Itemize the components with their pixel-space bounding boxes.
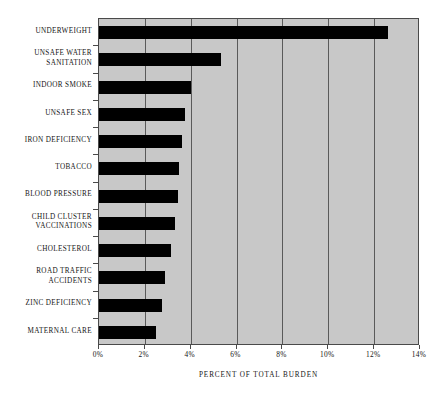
bar [99, 326, 156, 339]
bar [99, 299, 162, 312]
category-label: UNSAFE SEX [0, 109, 92, 119]
category-label: CHILD CLUSTERVACCINATIONS [0, 213, 92, 232]
category-label-line: CHOLESTEROL [0, 245, 92, 255]
value-tick [281, 345, 282, 349]
category-axis-labels: UNDERWEIGHTUNSAFE WATERSANITATIONINDOOR … [0, 18, 92, 345]
category-label: INDOOR SMOKE [0, 81, 92, 91]
value-tick-label: 2% [124, 350, 164, 359]
category-label-line: TOBACCO [0, 163, 92, 173]
category-label-line: MATERNAL CARE [0, 327, 92, 337]
category-label-line: BLOOD PRESSURE [0, 190, 92, 200]
category-label: UNDERWEIGHT [0, 27, 92, 37]
bar [99, 217, 175, 230]
bar [99, 162, 179, 175]
category-label-line: INDOOR SMOKE [0, 81, 92, 91]
bars-layer [99, 19, 418, 344]
category-label: BLOOD PRESSURE [0, 190, 92, 200]
bar [99, 190, 178, 203]
category-label-line: UNSAFE SEX [0, 109, 92, 119]
category-label: IRON DEFICIENCY [0, 136, 92, 146]
category-label-line: UNSAFE WATER [0, 49, 92, 59]
value-tick-label: 6% [216, 350, 256, 359]
value-tick-label: 14% [399, 350, 439, 359]
bar [99, 271, 165, 284]
category-label: ROAD TRAFFICACCIDENTS [0, 267, 92, 286]
value-tick-label: 12% [353, 350, 393, 359]
value-tick-label: 8% [261, 350, 301, 359]
burden-bar-chart: UNDERWEIGHTUNSAFE WATERSANITATIONINDOOR … [0, 0, 443, 393]
bar [99, 108, 185, 121]
category-label: CHOLESTEROL [0, 245, 92, 255]
category-label-line: ZINC DEFICIENCY [0, 299, 92, 309]
value-tick [190, 345, 191, 349]
value-tick-label: 0% [78, 350, 118, 359]
category-label: TOBACCO [0, 163, 92, 173]
category-label-line: CHILD CLUSTER [0, 213, 92, 223]
bar [99, 26, 388, 39]
value-tick [327, 345, 328, 349]
bar [99, 53, 221, 66]
value-tick-label: 10% [307, 350, 347, 359]
category-label-line: SANITATION [0, 59, 92, 69]
category-label: ZINC DEFICIENCY [0, 299, 92, 309]
value-tick [98, 345, 99, 349]
plot-area [98, 18, 419, 345]
bar [99, 135, 182, 148]
category-label-line: IRON DEFICIENCY [0, 136, 92, 146]
category-label-line: VACCINATIONS [0, 222, 92, 232]
category-label: MATERNAL CARE [0, 327, 92, 337]
category-label-line: UNDERWEIGHT [0, 27, 92, 37]
x-axis-title: PERCENT OF TOTAL BURDEN [98, 371, 419, 379]
value-tick [373, 345, 374, 349]
bar [99, 244, 171, 257]
value-tick [144, 345, 145, 349]
value-tick [419, 345, 420, 349]
category-label-line: ROAD TRAFFIC [0, 267, 92, 277]
value-tick [236, 345, 237, 349]
category-label-line: ACCIDENTS [0, 277, 92, 287]
category-label: UNSAFE WATERSANITATION [0, 49, 92, 68]
bar [99, 81, 191, 94]
value-tick-label: 4% [170, 350, 210, 359]
